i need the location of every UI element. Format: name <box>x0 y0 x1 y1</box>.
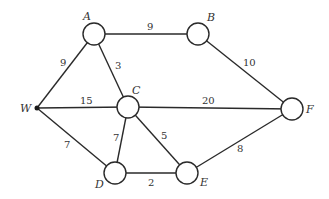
node-a <box>83 23 105 45</box>
edge-a-c <box>94 34 128 107</box>
graph-diagram: 99310152077582ABWCFDE <box>0 0 329 199</box>
edge-weight-e-f: 8 <box>237 143 243 154</box>
edge-weight-b-f: 10 <box>243 57 256 68</box>
nodes-layer <box>35 23 304 184</box>
node-label-w: W <box>20 102 33 115</box>
edge-w-d <box>37 108 115 173</box>
edge-weight-w-c: 15 <box>80 95 93 106</box>
edge-w-c <box>37 107 128 108</box>
edge-weight-a-b: 9 <box>147 21 153 32</box>
edge-weight-w-d: 7 <box>64 139 70 150</box>
edge-c-e <box>128 107 187 173</box>
edge-weight-a-c: 3 <box>115 60 121 71</box>
edge-weight-w-a: 9 <box>60 57 66 68</box>
node-label-c: C <box>132 84 141 97</box>
node-label-e: E <box>199 176 208 189</box>
edge-c-f <box>128 107 292 109</box>
node-w <box>35 106 40 111</box>
edge-weight-c-d: 7 <box>113 132 119 143</box>
node-f <box>281 98 303 120</box>
node-label-b: B <box>206 11 215 24</box>
node-e <box>176 162 198 184</box>
node-d <box>104 162 126 184</box>
labels-layer: 99310152077582ABWCFDE <box>20 10 314 191</box>
edge-e-f <box>187 109 292 173</box>
edge-weight-c-e: 5 <box>161 130 167 141</box>
edges-layer <box>37 34 292 173</box>
node-b <box>187 23 209 45</box>
node-c <box>117 96 139 118</box>
node-label-a: A <box>82 10 91 23</box>
edge-weight-c-f: 20 <box>202 95 215 106</box>
edge-weight-d-e: 2 <box>148 177 154 188</box>
node-label-f: F <box>305 103 314 116</box>
node-label-d: D <box>94 178 104 191</box>
